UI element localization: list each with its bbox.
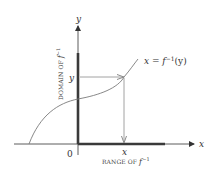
y-value-label: y [68,73,75,83]
x-value-label: x [122,147,127,157]
x-axis-label: x [199,139,204,149]
inverse-function-diagram: y x 0 y x x = f−1(y) DOMAIN OF f−1 RANGE… [0,0,209,178]
origin-label: 0 [67,149,73,159]
domain-label: DOMAIN OF f−1 [55,48,65,100]
inverse-function-curve [29,59,138,144]
y-axis-label: y [75,14,82,24]
range-label: RANGE OF f−1 [102,156,150,166]
curve-label: x = f−1(y) [144,55,187,67]
